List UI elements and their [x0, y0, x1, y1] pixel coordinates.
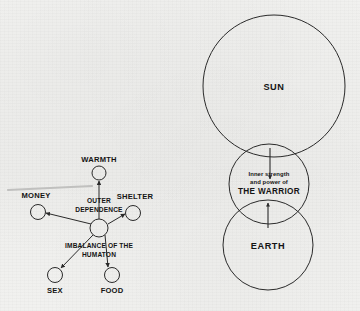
circle-label-warrior-line1: Inner strength: [248, 171, 289, 177]
node-circle-hub[interactable]: [90, 219, 108, 237]
hub-label-outer: OUTER: [87, 197, 111, 204]
node-circle-sex[interactable]: [48, 268, 63, 283]
circle-label-warrior-line3: THE WARRIOR: [238, 187, 300, 196]
diagram-page: WARMTH MONEY SHELTER SEX FOOD OUTER DEPE…: [0, 0, 360, 311]
node-circle-warmth[interactable]: [92, 166, 106, 180]
right-diagram-labels: SUN Inner strength and power of THE WARR…: [238, 82, 300, 251]
left-diagram-labels: WARMTH MONEY SHELTER SEX FOOD OUTER DEPE…: [22, 155, 154, 295]
node-label-sex: SEX: [47, 286, 63, 295]
circle-label-sun: SUN: [263, 82, 284, 92]
hub-label-imbalance: IMBALANCE OF THE: [65, 242, 133, 249]
node-label-shelter: SHELTER: [117, 192, 154, 201]
node-label-food: FOOD: [101, 286, 124, 295]
left-diagram-nodes: [31, 166, 141, 283]
paper-smudge-mark: [8, 186, 92, 190]
spoke-hub-to-shelter: [108, 214, 125, 224]
node-circle-food[interactable]: [105, 268, 120, 283]
hub-label-humaton: HUMATON: [82, 251, 116, 258]
diagram-canvas: WARMTH MONEY SHELTER SEX FOOD OUTER DEPE…: [0, 0, 360, 311]
node-circle-money[interactable]: [31, 205, 46, 220]
circle-label-warrior-line2: and power of: [250, 179, 288, 185]
node-circle-shelter[interactable]: [126, 206, 141, 221]
node-label-money: MONEY: [22, 191, 51, 200]
circle-label-earth: EARTH: [251, 241, 286, 251]
node-label-warmth: WARMTH: [81, 155, 116, 164]
hub-label-dependence: DEPENDENCE: [75, 206, 123, 213]
spoke-hub-to-money: [46, 213, 91, 224]
